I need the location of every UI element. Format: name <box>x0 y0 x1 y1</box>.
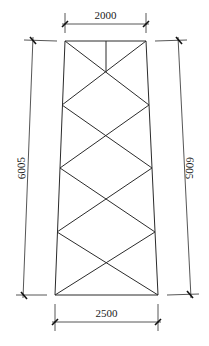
ext-line-right-top <box>155 40 187 41</box>
dimension-right: 6005 <box>155 37 199 298</box>
brace-2a <box>62 105 152 168</box>
truss-drawing: 2000 2500 6005 6005 <box>0 0 209 346</box>
brace-3a <box>60 168 155 232</box>
brace-4a <box>57 232 158 295</box>
dimension-left: 6005 <box>15 37 57 299</box>
bottom-width-label: 2500 <box>96 307 119 319</box>
brace-2b <box>60 105 149 168</box>
brace-1b <box>62 41 146 105</box>
brace-4b <box>55 232 155 295</box>
truss-frame <box>55 41 158 295</box>
dimension-bottom: 2500 <box>52 304 161 331</box>
brace-3b <box>57 168 152 232</box>
tick-left-bottom <box>21 292 27 299</box>
top-width-label: 2000 <box>95 9 118 21</box>
dimension-top: 2000 <box>62 9 149 33</box>
left-height-label: 6005 <box>15 156 28 179</box>
ext-line-right-bottom <box>167 294 199 295</box>
right-height-label: 6005 <box>184 157 197 180</box>
brace-1a <box>65 41 149 105</box>
ext-line-left-top <box>24 40 57 41</box>
